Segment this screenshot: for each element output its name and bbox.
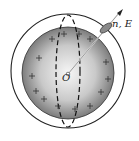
diagram: O n, E (0, 0, 139, 141)
vector-label: n, E (112, 18, 133, 29)
center-label: O (62, 72, 70, 83)
